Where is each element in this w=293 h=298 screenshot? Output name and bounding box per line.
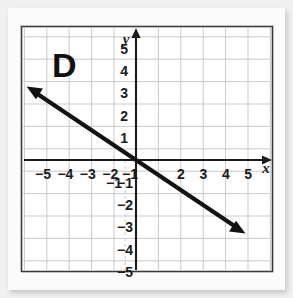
x-tick-label-negative-one: −1 <box>106 175 122 191</box>
coordinate-plane-figure: y x −5 −4 −3 −2 −1 2 3 4 5 5 4 3 <box>0 0 293 298</box>
y-tick-label: 3 <box>120 85 128 101</box>
x-tick-label: 3 <box>200 166 208 182</box>
x-tick-label: 2 <box>177 166 185 182</box>
y-tick-label: 5 <box>120 41 128 57</box>
x-axis-name: x <box>261 160 270 176</box>
x-tick-label: −4 <box>57 166 73 182</box>
coordinate-plane-svg: y x −5 −4 −3 −2 −1 2 3 4 5 5 4 3 <box>0 0 293 298</box>
y-tick-label: 1 <box>120 130 128 146</box>
y-tick-label: −4 <box>117 242 133 258</box>
y-tick-label: 4 <box>120 63 128 79</box>
screenshot-root: y x −5 −4 −3 −2 −1 2 3 4 5 5 4 3 <box>0 0 293 298</box>
y-tick-labels-positive: 5 4 3 2 1 <box>120 41 128 146</box>
y-tick-label: −2 <box>117 197 133 213</box>
y-tick-label: −5 <box>117 264 133 280</box>
x-tick-label: −3 <box>80 166 96 182</box>
x-tick-label: 4 <box>222 166 230 182</box>
y-tick-label: 2 <box>120 108 128 124</box>
x-tick-label: −5 <box>35 166 51 182</box>
figure-label: D <box>52 46 77 84</box>
y-tick-label: −3 <box>117 219 133 235</box>
x-tick-label: 5 <box>244 166 252 182</box>
